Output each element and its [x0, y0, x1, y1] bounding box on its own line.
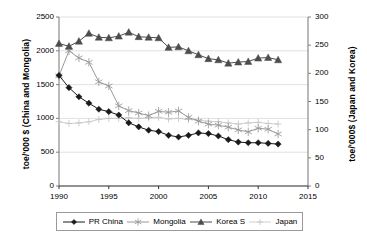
marker-diamond: [136, 124, 142, 130]
y-tick-left-500: 500: [28, 147, 54, 156]
x-tick-2005: 2005: [193, 192, 223, 201]
y-tick-right-150: 150: [315, 97, 341, 106]
series-korea-s: [55, 29, 281, 67]
marker-diamond: [146, 127, 152, 133]
gridlines: [59, 17, 308, 186]
y-tick-left-1500: 1500: [28, 80, 54, 89]
marker-triangle: [85, 30, 92, 37]
legend-symbol-triangle-icon: [189, 216, 213, 228]
marker-triangle: [205, 55, 212, 62]
x-tick-2015: 2015: [293, 192, 323, 201]
y-tick-left-2500: 2500: [28, 12, 54, 21]
legend-symbol-asterisk-icon: [126, 216, 150, 228]
x-tick-2010: 2010: [243, 192, 273, 201]
marker-diamond: [156, 128, 162, 134]
chart-legend: PR ChinaMongoliaKorea SJapan: [56, 212, 303, 231]
x-tick-1995: 1995: [94, 192, 124, 201]
y-tick-right-300: 300: [315, 12, 341, 21]
x-tick-1990: 1990: [44, 192, 74, 201]
legend-label: Korea S: [216, 217, 245, 226]
x-tick-2000: 2000: [144, 192, 174, 201]
marker-triangle: [195, 51, 202, 58]
marker-diamond: [96, 106, 102, 112]
y-tick-right-200: 200: [315, 68, 341, 77]
marker-diamond: [165, 132, 171, 138]
marker-diamond: [175, 134, 181, 140]
axes: [56, 17, 311, 189]
legend-label: PR China: [89, 217, 123, 226]
y-tick-left-1000: 1000: [28, 113, 54, 122]
legend-item-japan[interactable]: Japan: [248, 216, 297, 228]
marker-diamond: [71, 219, 76, 224]
marker-diamond: [215, 133, 221, 139]
marker-diamond: [185, 132, 191, 138]
legend-item-mongolia[interactable]: Mongolia: [126, 216, 185, 228]
y-tick-right-250: 250: [315, 40, 341, 49]
y-tick-left-2000: 2000: [28, 46, 54, 55]
marker-diamond: [265, 140, 271, 146]
marker-diamond: [86, 100, 92, 106]
marker-diamond: [275, 141, 281, 147]
legend-label: Japan: [275, 217, 297, 226]
marker-diamond: [106, 109, 112, 115]
marker-diamond: [225, 137, 231, 143]
marker-diamond: [205, 131, 211, 137]
marker-triangle: [55, 40, 62, 47]
plot-area: [59, 17, 308, 186]
plot-svg: [59, 17, 310, 188]
y-tick-right-50: 50: [315, 153, 341, 162]
legend-item-pr-china[interactable]: PR China: [62, 216, 123, 228]
legend-symbol-diamond-icon: [62, 216, 86, 228]
legend-symbol-plus-icon: [248, 216, 272, 228]
chart-container: toe/'000 $ (China and Mongolia) toe/'000…: [0, 0, 367, 239]
y-tick-right-0: 0: [315, 181, 341, 190]
marker-triangle: [125, 29, 132, 36]
marker-diamond: [245, 140, 251, 146]
marker-diamond: [235, 139, 241, 145]
marker-diamond: [255, 140, 261, 146]
marker-triangle: [115, 33, 122, 40]
y-axis-label-right: toe/'000$ (Japan and Korea): [347, 24, 357, 184]
y-tick-left-0: 0: [28, 181, 54, 190]
legend-label: Mongolia: [153, 217, 185, 226]
legend-item-korea-s[interactable]: Korea S: [189, 216, 245, 228]
y-tick-right-100: 100: [315, 125, 341, 134]
marker-diamond: [195, 130, 201, 136]
